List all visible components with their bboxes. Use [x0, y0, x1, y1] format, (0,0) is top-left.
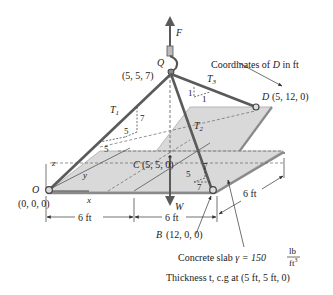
dim-6ft-3: 6 ft [243, 188, 257, 199]
t1-run-a: 5 [124, 126, 129, 136]
coords-note: Coordinates of D in ft [211, 59, 299, 70]
hook-icon [168, 56, 177, 71]
unit-denominator: ft3 [289, 257, 298, 268]
dim-6ft-1: 6 ft [78, 212, 92, 223]
label-o: O [32, 184, 39, 195]
label-t1: T1 [110, 104, 119, 117]
thickness-text: Thickness t, c.g at (5 ft, 5 ft, 0) [166, 272, 290, 284]
label-c: C [133, 159, 140, 170]
slab-text: Concrete slab γ = 150 [178, 252, 266, 263]
t3-rise: 1 [188, 88, 193, 98]
t3-run: 1 [202, 94, 207, 104]
anchor-b [210, 187, 217, 194]
t2-run-b: 7 [197, 182, 202, 192]
hook-shank [167, 46, 173, 56]
unit-numerator: lb [289, 246, 297, 256]
axis-z-label: z [51, 158, 56, 168]
label-d: D [261, 91, 270, 102]
label-b: B [156, 229, 162, 240]
slab-annotation: Concrete slab γ = 150 lb ft3 Thickness t… [166, 246, 300, 284]
axis-y-label: y [82, 170, 87, 180]
label-q: Q [157, 57, 165, 68]
label-b-coords: (12, 0, 0) [166, 229, 203, 241]
t1-rise: 7 [140, 113, 145, 123]
t2-rise: 7 [203, 161, 208, 171]
slab-cable-diagram: F Q (5, 5, 7) Coordinates of D in ft D (… [0, 0, 333, 295]
label-t3: T3 [207, 73, 217, 86]
t2-run-a: 5 [186, 169, 191, 179]
dim-6ft-2: 6 ft [165, 212, 179, 223]
label-w: W [175, 201, 185, 212]
anchor-o [46, 187, 53, 194]
t1-run-b: 5 [104, 144, 109, 154]
leader-slab [228, 180, 244, 247]
anchor-d [253, 104, 259, 110]
label-q-coords: (5, 5, 7) [122, 70, 154, 82]
label-f: F [175, 27, 183, 38]
label-o-coords: (0, 0, 0) [18, 198, 50, 210]
label-d-coords: (5, 12, 0) [272, 91, 309, 103]
label-c-coords: (5, 5, 0) [142, 159, 174, 171]
axis-x-label: x [86, 195, 91, 205]
